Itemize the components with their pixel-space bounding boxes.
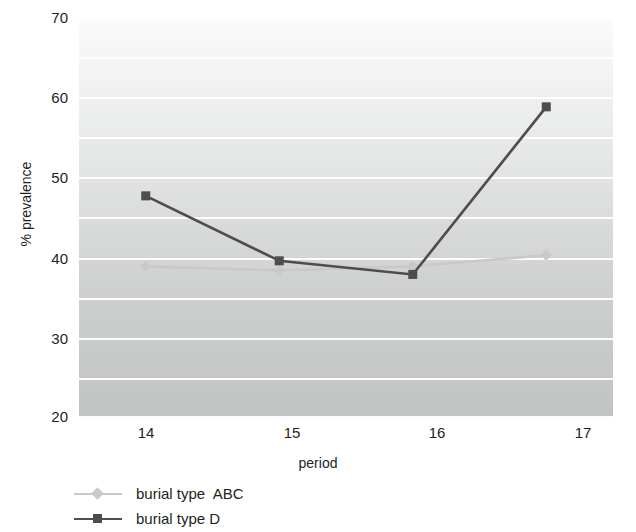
legend-key-abc bbox=[74, 485, 122, 503]
y-axis-title: % prevalence bbox=[18, 134, 34, 274]
square-marker bbox=[408, 270, 417, 279]
legend-label-d: burial type D bbox=[136, 511, 220, 526]
legend: burial type ABC burial type D bbox=[74, 481, 244, 531]
series-burial-type-abc bbox=[140, 250, 552, 276]
line-chart: 70 60 50 40 30 20 14 15 16 17 period % p… bbox=[0, 0, 636, 532]
y-tick-label-50: 50 bbox=[28, 170, 68, 185]
diamond-marker bbox=[274, 265, 285, 276]
diamond-marker bbox=[140, 261, 151, 272]
square-marker bbox=[141, 191, 150, 200]
y-tick-label-30: 30 bbox=[28, 331, 68, 346]
legend-label-abc: burial type ABC bbox=[136, 486, 244, 501]
square-marker bbox=[542, 102, 551, 111]
y-tick-label-70: 70 bbox=[28, 10, 68, 25]
x-tick-label-15: 15 bbox=[262, 425, 322, 440]
y-tick-label-20: 20 bbox=[28, 409, 68, 424]
square-icon bbox=[93, 514, 102, 523]
diamond-icon bbox=[91, 487, 104, 500]
legend-key-d bbox=[74, 510, 122, 528]
y-tick-label-40: 40 bbox=[28, 251, 68, 266]
y-tick-label-60: 60 bbox=[28, 90, 68, 105]
legend-item-d[interactable]: burial type D bbox=[74, 506, 244, 531]
series-burial-type-d bbox=[141, 102, 551, 279]
series-layer bbox=[79, 17, 613, 418]
legend-item-abc[interactable]: burial type ABC bbox=[74, 481, 244, 506]
x-axis-title: period bbox=[0, 455, 636, 471]
square-marker bbox=[275, 256, 284, 265]
x-tick-label-16: 16 bbox=[407, 425, 467, 440]
series-line bbox=[146, 107, 547, 275]
diamond-marker bbox=[541, 250, 552, 261]
x-tick-label-17: 17 bbox=[553, 425, 613, 440]
x-tick-label-14: 14 bbox=[116, 425, 176, 440]
